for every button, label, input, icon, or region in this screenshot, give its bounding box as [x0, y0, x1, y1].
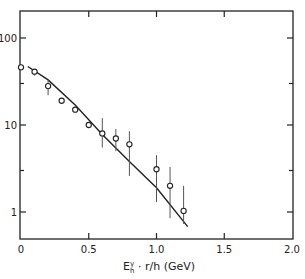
x-tick-label: 0 — [18, 244, 24, 255]
y-tick-labels: 110100 — [0, 33, 17, 218]
x-tick-label: 2.0 — [284, 244, 300, 255]
point-marker — [73, 107, 78, 112]
data-point — [86, 122, 91, 127]
y-tick-label: 10 — [4, 120, 17, 131]
point-marker — [59, 98, 64, 103]
plot-frame — [20, 11, 293, 239]
y-tick-label: 100 — [0, 33, 17, 44]
point-marker — [154, 167, 159, 172]
data-points — [18, 65, 186, 224]
x-tick-label: 1.0 — [149, 244, 165, 255]
data-point — [154, 155, 159, 202]
point-marker — [18, 65, 23, 70]
point-marker — [86, 122, 91, 127]
fit-curve-path — [28, 67, 188, 227]
chart: 110100 00.51.01.52.0 Eγh · r/h (GeV) — [0, 0, 305, 279]
x-tick-label: 1.5 — [216, 244, 232, 255]
data-point — [167, 167, 172, 218]
point-marker — [181, 208, 186, 213]
data-point — [73, 107, 78, 112]
x-tick-labels: 00.51.01.52.0 — [18, 244, 300, 255]
data-point — [100, 118, 105, 147]
axis-ticks — [20, 11, 293, 239]
data-point — [113, 129, 118, 151]
plot-border — [20, 11, 293, 239]
x-tick-label: 0.5 — [81, 244, 97, 255]
point-marker — [100, 131, 105, 136]
data-point — [59, 98, 64, 103]
point-marker — [167, 183, 172, 188]
x-axis-title: Eγh · r/h (GeV) — [123, 260, 195, 275]
data-point — [127, 131, 132, 176]
point-marker — [113, 136, 118, 141]
y-tick-label: 1 — [11, 207, 17, 218]
data-point — [32, 69, 37, 75]
point-marker — [46, 83, 51, 88]
point-marker — [32, 69, 37, 74]
data-point — [18, 65, 23, 70]
point-marker — [127, 142, 132, 147]
fit-curve — [28, 67, 188, 227]
